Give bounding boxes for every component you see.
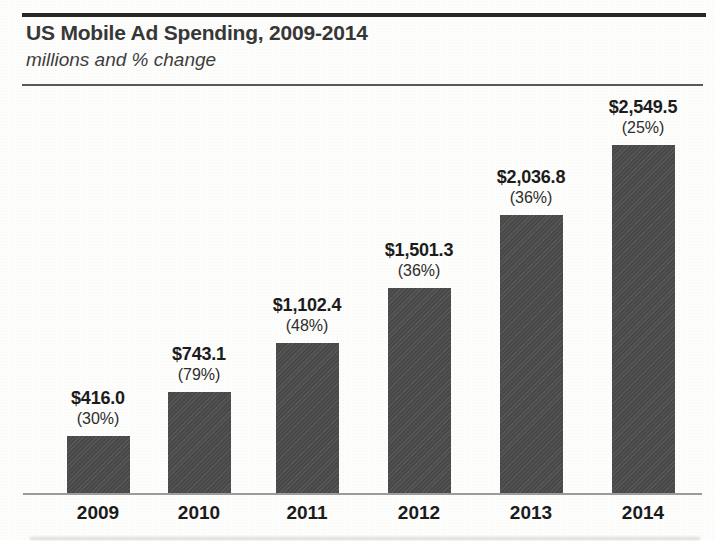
x-axis-tick-label: 2013 [486, 502, 576, 524]
bar-2009 [67, 436, 130, 493]
bar-value-label: $2,549.5 [609, 97, 677, 118]
bar-value-label: $1,102.4 [273, 295, 341, 316]
x-axis-tick-label: 2009 [53, 502, 143, 524]
bar-percent-label: (25%) [622, 118, 665, 137]
bar-2014 [612, 145, 675, 493]
bar-value-label: $1,501.3 [385, 240, 453, 261]
bar-percent-label: (48%) [286, 316, 329, 335]
x-axis-line [23, 493, 702, 495]
bar-group: $1,501.3(36%) [354, 240, 484, 493]
scanned-chart-page: US Mobile Ad Spending, 2009-2014 million… [0, 0, 715, 541]
bar-group: $1,102.4(48%) [242, 295, 372, 493]
scan-artifact [30, 537, 700, 540]
bar-percent-label: (79%) [178, 365, 221, 384]
bar-value-label: $2,036.8 [497, 167, 565, 188]
bar-value-label: $743.1 [172, 344, 226, 365]
x-axis-tick-label: 2014 [598, 502, 688, 524]
bar-group: $2,549.5(25%) [578, 97, 708, 493]
x-axis-tick-label: 2012 [374, 502, 464, 524]
bar-group: $2,036.8(36%) [466, 167, 596, 493]
bar-2010 [168, 392, 231, 493]
bar-percent-label: (36%) [510, 188, 553, 207]
x-axis-tick-label: 2010 [154, 502, 244, 524]
bar-chart: $416.0(30%)2009$743.1(79%)2010$1,102.4(4… [0, 0, 715, 541]
bar-2011 [276, 343, 339, 493]
bar-2012 [388, 288, 451, 493]
bar-value-label: $416.0 [71, 388, 125, 409]
x-axis-tick-label: 2011 [262, 502, 352, 524]
bar-percent-label: (30%) [77, 409, 120, 428]
bar-percent-label: (36%) [398, 261, 441, 280]
bar-2013 [500, 215, 563, 493]
